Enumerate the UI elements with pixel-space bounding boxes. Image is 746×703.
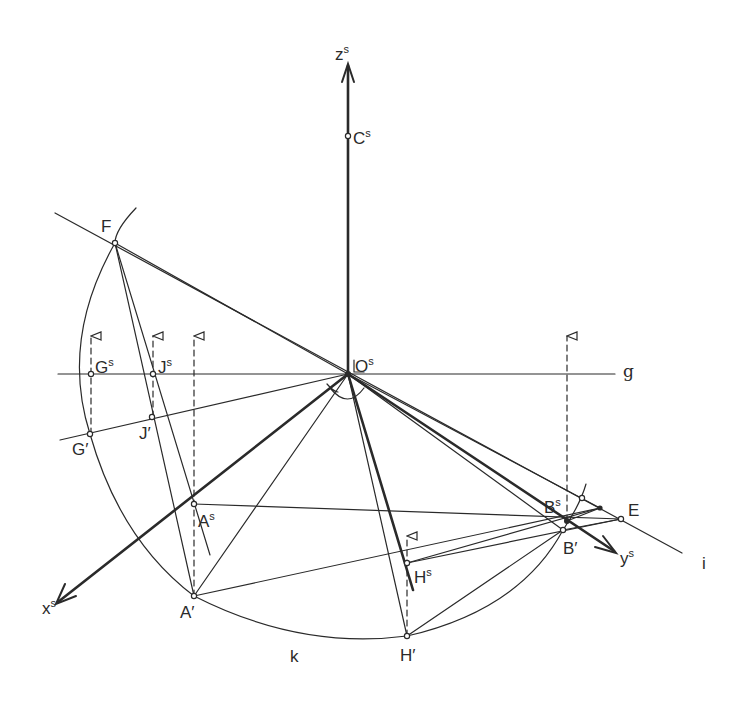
point-o (345, 371, 351, 377)
point-c (345, 133, 350, 138)
line-o-hs (348, 374, 413, 590)
x-axis (58, 374, 348, 602)
line-o-e2 (348, 374, 600, 508)
point-hp (404, 633, 409, 638)
line-o-ap (194, 374, 348, 596)
construction-drawing (0, 0, 746, 703)
point-k-i (579, 495, 584, 500)
label-zs: zs (335, 44, 349, 63)
label-e: E (628, 502, 639, 519)
label-bp: B′ (563, 540, 578, 557)
label-js: Js (158, 357, 172, 376)
label-cs: Cs (353, 128, 371, 147)
point-bs (564, 518, 570, 524)
label-os: Os (355, 356, 374, 375)
point-gs (88, 371, 93, 376)
line-bp-e (563, 519, 621, 530)
label-i: i (702, 555, 706, 572)
angle-arc-1 (330, 388, 364, 399)
diagram-canvas: zs Cs F Gs Js Os g G′ J′ As A′ xs Hs H′ … (0, 0, 746, 703)
line-o-bp (348, 374, 563, 530)
label-f: F (101, 218, 111, 235)
label-bs: Bs (544, 497, 561, 516)
point-e (618, 516, 623, 521)
point-gp (87, 431, 92, 436)
line-f-ap (115, 243, 194, 596)
label-gp: G′ (72, 441, 88, 458)
label-ap: A′ (180, 604, 195, 621)
point-hs (404, 560, 409, 565)
y-axis (348, 374, 614, 551)
label-hs: Hs (414, 567, 432, 586)
line-f-o (115, 243, 348, 374)
point-jp (149, 414, 154, 419)
label-gs: Gs (95, 357, 114, 376)
label-hp: H′ (400, 647, 415, 664)
label-ys: ys (620, 548, 634, 567)
label-xs: xs (42, 598, 56, 617)
label-k: k (290, 648, 299, 665)
label-jp: J′ (139, 425, 151, 442)
line-o-hp (348, 374, 407, 636)
point-bp (560, 527, 565, 532)
line-ap-b (194, 508, 600, 596)
point-as (191, 501, 196, 506)
point-f (112, 240, 117, 245)
label-as: As (198, 511, 215, 530)
point-b-aux (597, 505, 602, 510)
point-js (150, 371, 155, 376)
label-g: g (623, 363, 634, 380)
point-ap (191, 593, 196, 598)
